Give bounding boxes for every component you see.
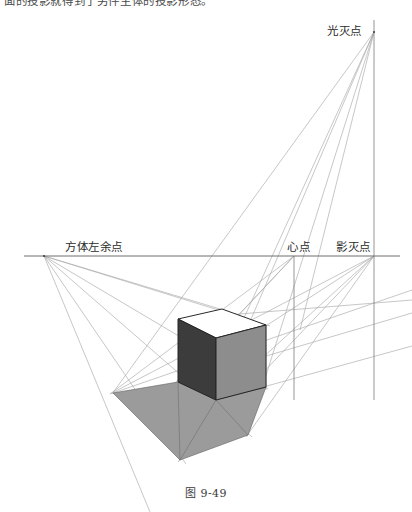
cube-right-face	[216, 325, 266, 400]
label-center-point: 心点	[287, 238, 310, 254]
label-cube-left-vanishing-point: 方体左余点	[65, 238, 123, 254]
perspective-shadow-diagram	[0, 0, 412, 512]
light-vanishing-point-marker	[373, 31, 375, 33]
construction-line	[300, 32, 374, 330]
figure-caption: 图 9-49	[0, 484, 412, 500]
left-vanishing-point-marker	[43, 255, 45, 257]
construction-line	[44, 256, 150, 512]
figure-page: 面的投影就得到了另件主体的投影形态。	[0, 0, 412, 512]
label-light-vanishing-point: 光灭点	[327, 22, 362, 38]
construction-line	[44, 256, 230, 312]
label-shadow-vanishing-point: 影灭点	[336, 238, 371, 254]
cast-shadow	[113, 382, 266, 460]
cube	[178, 309, 266, 400]
